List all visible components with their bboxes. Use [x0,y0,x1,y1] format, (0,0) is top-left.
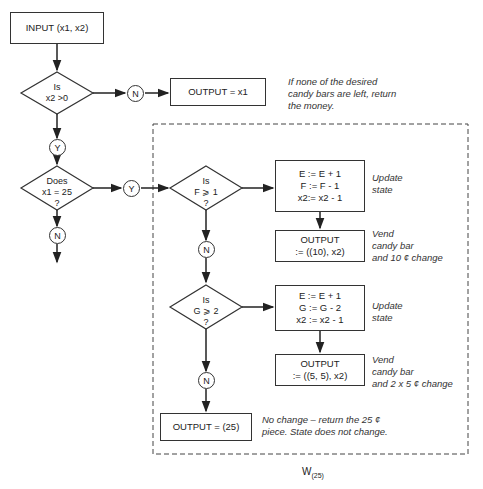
output-10-box: OUTPUT := ((10), x2) [275,230,365,262]
update-f-box: E := E + 1 F := F - 1 x2:= x2 - 1 [275,160,365,212]
connector-y: Y [123,180,140,197]
output-55-box: OUTPUT := ((5, 5), x2) [275,354,365,386]
decision-f-text: Is F ⩾ 1 ? [176,176,236,209]
note-return-money: If none of the desired candy bars are le… [288,76,396,112]
decision-x2-text: Is x2 >0 [27,82,87,104]
connector-n: N [49,227,66,244]
update-g-box: E := E + 1 G := G - 2 x2 := x2 - 1 [275,285,365,331]
note-update-state-1: Update state [372,172,403,196]
connector-n: N [127,85,144,102]
input-label: INPUT (x1, x2) [26,22,89,34]
connector-y: Y [49,139,66,156]
output-25-box: OUTPUT = (25) [160,413,252,441]
note-vend-2: Vend candy bar and 2 x 5 ¢ change [372,354,453,390]
output-x1-box: OUTPUT = x1 [170,78,266,106]
note-no-change: No change – return the 25 ¢ piece. State… [262,414,388,438]
note-vend-1: Vend candy bar and 10 ¢ change [372,228,443,264]
note-update-state-2: Update state [372,300,403,324]
decision-x1-text: Does x1 = 25 ? [27,176,87,209]
input-box: INPUT (x1, x2) [10,12,104,44]
connector-n: N [198,372,215,389]
figure-caption: W(25) [302,466,324,479]
decision-g-text: Is G ⩾ 2 ? [176,295,236,328]
connector-n: N [198,241,215,258]
